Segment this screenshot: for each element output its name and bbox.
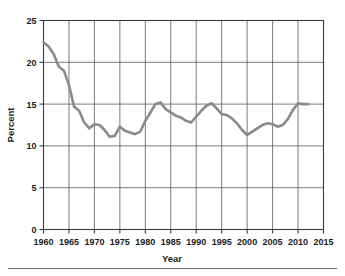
y-tick-label: 25 <box>26 16 36 26</box>
y-tick-label: 15 <box>26 100 36 110</box>
x-tick-label: 2000 <box>237 237 257 247</box>
x-tick-label: 2015 <box>313 237 333 247</box>
line-chart: 1960196519701975198019851990199520002005… <box>0 0 345 276</box>
x-axis-ticks <box>44 230 324 234</box>
chart-figure: 1960196519701975198019851990199520002005… <box>0 0 345 276</box>
y-tick-label: 5 <box>31 183 36 193</box>
x-axis-title: Year <box>162 253 182 264</box>
y-axis-ticks <box>40 21 44 230</box>
x-tick-label: 1975 <box>110 237 130 247</box>
y-tick-label: 20 <box>26 58 36 68</box>
y-tick-label: 10 <box>26 141 36 151</box>
y-tick-label: 0 <box>31 225 36 235</box>
x-tick-label: 1970 <box>84 237 104 247</box>
y-axis-title: Percent <box>5 107 16 143</box>
bottom-divider-rule <box>8 268 337 269</box>
x-axis-tick-labels: 1960196519701975198019851990199520002005… <box>33 237 333 247</box>
x-tick-label: 1985 <box>161 237 181 247</box>
x-tick-label: 1995 <box>212 237 232 247</box>
x-tick-label: 2010 <box>288 237 308 247</box>
x-tick-label: 2005 <box>263 237 283 247</box>
y-axis-tick-labels: 0510152025 <box>26 16 36 235</box>
x-tick-label: 1980 <box>135 237 155 247</box>
x-tick-label: 1965 <box>59 237 79 247</box>
x-tick-label: 1960 <box>33 237 53 247</box>
x-tick-label: 1990 <box>186 237 206 247</box>
